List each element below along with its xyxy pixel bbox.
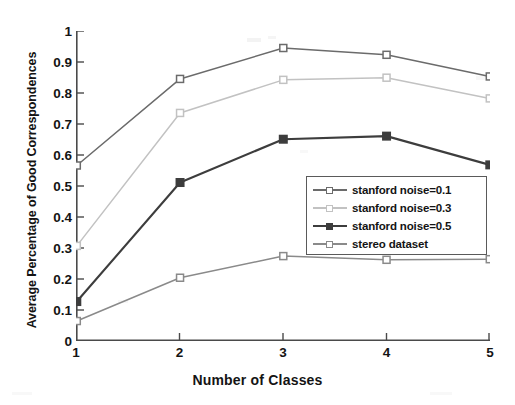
x-tick-label: 2: [165, 345, 195, 360]
data-point-marker: [486, 256, 490, 263]
y-tick-label: 0.3: [36, 241, 72, 256]
chart-figure: Average Percentage of Good Correspondenc…: [0, 0, 515, 405]
y-tick-label: 1: [36, 24, 72, 39]
y-tick-label: 0.5: [36, 179, 72, 194]
legend: stanford noise=0.1 stanford noise=0.3 st…: [306, 176, 487, 255]
data-point-marker: [76, 242, 80, 249]
legend-item-stanford-noise-01[interactable]: stanford noise=0.1: [307, 181, 486, 199]
legend-item-stanford-noise-03[interactable]: stanford noise=0.3: [307, 199, 486, 217]
data-point-marker: [280, 253, 287, 260]
x-tick-label: 4: [372, 345, 402, 360]
legend-swatch-icon: [313, 184, 347, 196]
data-point-marker: [383, 133, 390, 140]
legend-label: stanford noise=0.1: [352, 184, 451, 196]
y-tick-label: 0.8: [36, 86, 72, 101]
data-point-marker: [486, 95, 490, 102]
data-point-marker: [280, 76, 287, 83]
x-tick-label: 5: [475, 345, 505, 360]
x-tick-label: 1: [61, 345, 91, 360]
data-point-marker: [486, 73, 490, 80]
legend-label: stereo dataset: [352, 238, 428, 250]
data-point-marker: [280, 136, 287, 143]
legend-item-stereo-dataset[interactable]: stereo dataset: [307, 235, 486, 253]
data-point-marker: [383, 51, 390, 58]
series-line: [77, 256, 490, 321]
data-point-marker: [177, 75, 184, 82]
data-point-marker: [383, 74, 390, 81]
y-tick-label: 0.9: [36, 55, 72, 70]
series-stereo-dataset: [76, 253, 490, 325]
data-point-marker: [383, 256, 390, 263]
legend-item-stanford-noise-05[interactable]: stanford noise=0.5: [307, 217, 486, 235]
data-point-marker: [76, 298, 80, 305]
data-point-marker: [280, 45, 287, 52]
data-point-marker: [177, 179, 184, 186]
legend-swatch-icon: [313, 202, 347, 214]
data-point-marker: [177, 274, 184, 281]
y-tick-label: 0.6: [36, 148, 72, 163]
x-tick-label: 3: [268, 345, 298, 360]
scan-artifact: [12, 392, 32, 395]
legend-swatch-icon: [313, 238, 347, 250]
y-tick-label: 0.7: [36, 117, 72, 132]
data-point-marker: [177, 109, 184, 116]
legend-swatch-icon: [313, 220, 347, 232]
y-tick-label: 0.2: [36, 272, 72, 287]
scan-artifact: [430, 392, 452, 395]
legend-label: stanford noise=0.3: [352, 202, 451, 214]
data-point-marker: [486, 161, 490, 168]
series-stanford-noise-0-1: [76, 45, 490, 169]
y-tick-label: 0.1: [36, 303, 72, 318]
data-point-marker: [76, 318, 80, 325]
data-point-marker: [76, 162, 80, 169]
y-tick-label: 0.4: [36, 210, 72, 225]
x-axis-label: Number of Classes: [0, 372, 515, 388]
legend-label: stanford noise=0.5: [352, 220, 451, 232]
